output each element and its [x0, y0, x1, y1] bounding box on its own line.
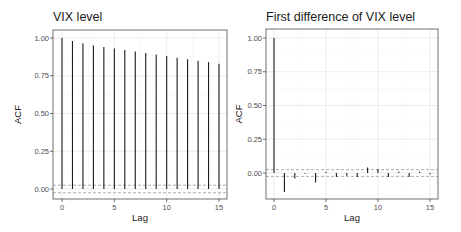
x-tick-label: 15: [426, 203, 434, 212]
y-tick-label: 0.50: [34, 109, 49, 118]
x-axis-label: Lag: [344, 212, 360, 223]
acf-panel-vix-level: VIX level0.000.250.500.751.00051015LagAC…: [0, 0, 230, 232]
plot-area: [53, 30, 227, 199]
acf-chart-vix-diff: First difference of VIX level0.000.250.5…: [230, 0, 461, 232]
y-tick-label: 0.00: [34, 185, 49, 194]
y-tick-label: 0.25: [247, 135, 262, 144]
x-axis-label: Lag: [132, 212, 148, 223]
x-tick-label: 0: [272, 203, 276, 212]
y-tick-label: 0.75: [247, 67, 262, 76]
x-tick-label: 10: [162, 203, 170, 212]
plot-area: [266, 29, 438, 199]
x-tick-label: 5: [324, 203, 328, 212]
chart-title: First difference of VIX level: [266, 10, 415, 24]
x-tick-label: 5: [112, 203, 116, 212]
y-axis-label: ACF: [12, 105, 23, 124]
y-tick-label: 0.75: [34, 71, 49, 80]
acf-chart-vix-level: VIX level0.000.250.500.751.00051015LagAC…: [0, 0, 230, 232]
x-tick-label: 10: [374, 203, 382, 212]
y-tick-label: 0.50: [247, 101, 262, 110]
y-axis-label: ACF: [233, 104, 244, 123]
y-tick-label: 1.00: [34, 34, 49, 43]
y-tick-label: 1.00: [247, 34, 262, 43]
acf-panel-vix-diff: First difference of VIX level0.000.250.5…: [230, 0, 461, 232]
x-tick-label: 0: [60, 203, 64, 212]
y-tick-label: 0.00: [247, 169, 262, 178]
x-tick-label: 15: [215, 203, 223, 212]
y-tick-label: 0.25: [34, 147, 49, 156]
chart-title: VIX level: [53, 10, 102, 24]
